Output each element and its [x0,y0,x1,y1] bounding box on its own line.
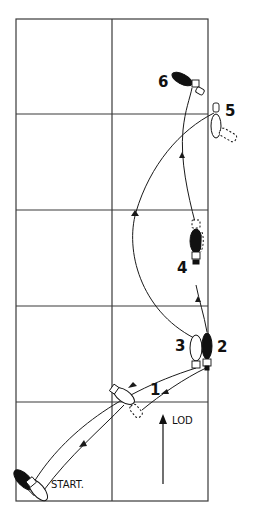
footprint-step-4 [190,220,203,264]
arrow-icon [195,296,201,302]
step-number-2: 2 [217,338,227,356]
step-number-5: 5 [225,102,235,120]
arrow-icon [128,382,137,388]
arrow-icon [131,210,139,216]
footprint-step-1 [108,382,143,418]
arrow-icon [79,440,87,447]
footprint-step-3 [190,335,202,368]
path-3-to-5 [133,113,214,338]
footprint-step-6 [170,69,205,95]
step-number-6: 6 [158,73,168,91]
step-number-1: 1 [150,381,160,399]
lod-label: LOD [172,415,193,426]
start-label: START. [51,479,84,490]
path-2-to-4 [196,285,207,332]
arrow-icon [179,152,185,158]
path-4-to-6 [182,88,195,222]
step-paths [34,88,214,490]
diagram-canvas: LOD START. 1 2 3 4 5 6 [0,0,253,523]
step-number-3: 3 [175,337,185,355]
step-number-4: 4 [177,259,187,277]
lod-arrow-up-icon [159,414,167,424]
line-of-dance-indicator: LOD [159,414,193,484]
direction-arrows [79,152,201,447]
footprint-step-2 [202,333,212,370]
